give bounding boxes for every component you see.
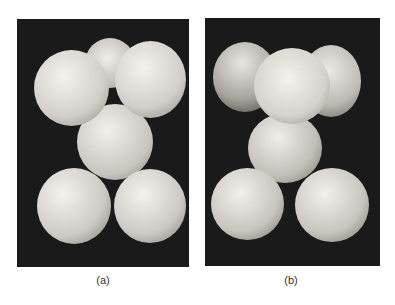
photo-panel-a	[17, 19, 189, 267]
sphere-top-front	[254, 48, 330, 124]
sphere-top-left	[34, 50, 109, 126]
sphere-bottom-right	[114, 169, 186, 243]
sphere-bottom-right	[295, 168, 369, 242]
caption-a: (a)	[83, 274, 123, 286]
sphere-top-right	[115, 41, 186, 118]
photo-panel-b	[205, 18, 380, 266]
caption-b: (b)	[271, 274, 311, 286]
sphere-bottom-left	[37, 168, 111, 244]
sphere-bottom-left	[211, 168, 284, 240]
